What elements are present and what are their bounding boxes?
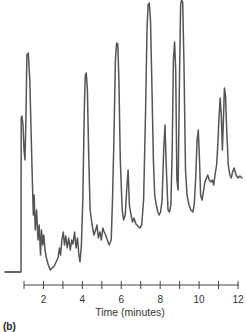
panel-label: (b) <box>3 321 16 332</box>
x-axis-tick-labels: 24681012 <box>41 294 244 305</box>
x-tick-label: 4 <box>80 294 86 305</box>
chromatogram-chart: 24681012 Time (minutes) (b) <box>0 0 246 332</box>
x-axis: 24681012 <box>24 281 244 305</box>
x-tick-label: 2 <box>41 294 47 305</box>
x-tick-label: 6 <box>118 294 124 305</box>
chromatogram-trace <box>5 0 242 272</box>
x-tick-label: 12 <box>232 294 244 305</box>
x-tick-label: 8 <box>157 294 163 305</box>
x-tick-label: 10 <box>194 294 206 305</box>
x-axis-title: Time (minutes) <box>95 306 165 318</box>
